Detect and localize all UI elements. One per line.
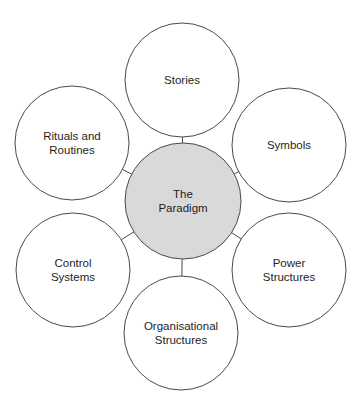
node-label: Organisational bbox=[144, 320, 218, 332]
node-label: Control bbox=[54, 257, 91, 269]
node-paradigm: TheParadigm bbox=[125, 143, 241, 259]
node-label: Symbols bbox=[267, 139, 311, 151]
node-label: Stories bbox=[164, 74, 200, 86]
node-symbols: Symbols bbox=[232, 88, 346, 202]
node-circle bbox=[16, 213, 130, 327]
node-label: Paradigm bbox=[158, 202, 207, 214]
node-circle bbox=[15, 86, 129, 200]
node-power-structures: PowerStructures bbox=[232, 213, 346, 327]
node-label: Power bbox=[273, 257, 306, 269]
node-organisational-structures: OrganisationalStructures bbox=[124, 276, 238, 390]
node-label: The bbox=[173, 188, 193, 200]
node-label: Systems bbox=[51, 271, 95, 283]
center-circle bbox=[125, 143, 241, 259]
center-node: TheParadigm bbox=[125, 143, 241, 259]
node-rituals-and-routines: Rituals andRoutines bbox=[15, 86, 129, 200]
node-circle bbox=[124, 276, 238, 390]
node-circle bbox=[232, 213, 346, 327]
cultural-web-diagram: StoriesSymbolsPowerStructuresOrganisatio… bbox=[0, 0, 362, 406]
node-label: Structures bbox=[155, 334, 208, 346]
node-stories: Stories bbox=[125, 23, 239, 137]
node-label: Structures bbox=[263, 271, 316, 283]
node-label: Routines bbox=[49, 144, 95, 156]
node-label: Rituals and bbox=[43, 130, 101, 142]
node-control-systems: ControlSystems bbox=[16, 213, 130, 327]
